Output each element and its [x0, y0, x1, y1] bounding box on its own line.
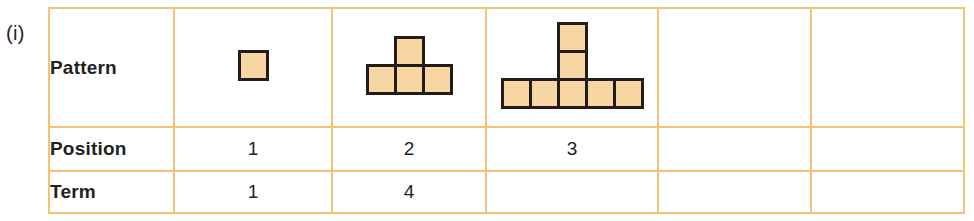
pattern-figure-1	[238, 50, 269, 81]
row-header-term: Term	[49, 171, 174, 213]
pattern-square	[422, 64, 453, 95]
pattern-square	[501, 78, 532, 109]
term-value-4	[658, 171, 811, 213]
pattern-square	[529, 78, 560, 109]
pattern-square	[557, 22, 588, 53]
position-value-4	[658, 127, 811, 171]
pattern-figure-2	[366, 36, 453, 95]
table-row-position: Position 1 2 3	[49, 127, 964, 171]
pattern-cell-3	[486, 8, 658, 127]
table-row-term: Term 1 4	[49, 171, 964, 213]
term-value-3	[486, 171, 658, 213]
term-value-2: 4	[332, 171, 486, 213]
position-value-1: 1	[174, 127, 332, 171]
pattern-cell-4	[658, 8, 811, 127]
pattern-square	[238, 50, 269, 81]
pattern-cell-1	[174, 8, 332, 127]
pattern-square	[394, 64, 425, 95]
pattern-square	[585, 78, 616, 109]
pattern-cell-2	[332, 8, 486, 127]
pattern-square	[394, 36, 425, 67]
figure-root: (i) Pattern	[0, 0, 974, 221]
pattern-table: Pattern Position	[48, 7, 965, 214]
pattern-cell-5	[811, 8, 964, 127]
term-value-1: 1	[174, 171, 332, 213]
term-value-5	[811, 171, 964, 213]
position-value-3: 3	[486, 127, 658, 171]
row-header-pattern: Pattern	[49, 8, 174, 127]
pattern-square	[613, 78, 644, 109]
pattern-figure-3	[501, 22, 644, 109]
position-value-5	[811, 127, 964, 171]
position-value-2: 2	[332, 127, 486, 171]
part-label: (i)	[6, 22, 25, 45]
row-header-position: Position	[49, 127, 174, 171]
pattern-square	[557, 78, 588, 109]
pattern-square	[366, 64, 397, 95]
table-row-pattern: Pattern	[49, 8, 964, 127]
pattern-square	[557, 50, 588, 81]
